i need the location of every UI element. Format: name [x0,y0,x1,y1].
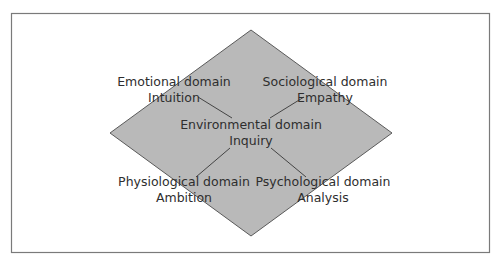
diagram-canvas: Emotional domain Intuition Sociological … [0,0,501,263]
node-bottom-left: Physiological domain Ambition [118,174,250,206]
node-trait: Empathy [263,90,388,106]
node-center: Environmental domain Inquiry [180,117,322,149]
node-trait: Ambition [118,190,250,206]
node-domain: Sociological domain [263,74,388,90]
node-top-right: Sociological domain Empathy [263,74,388,106]
node-bottom-right: Psychological domain Analysis [256,174,391,206]
node-trait: Analysis [256,190,391,206]
node-domain: Psychological domain [256,174,391,190]
node-domain: Physiological domain [118,174,250,190]
node-trait: Intuition [117,90,231,106]
center-trait: Inquiry [180,133,322,149]
center-domain: Environmental domain [180,117,322,133]
node-domain: Emotional domain [117,74,231,90]
node-top-left: Emotional domain Intuition [117,74,231,106]
